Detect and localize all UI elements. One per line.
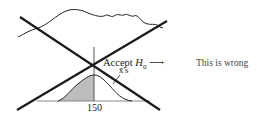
axis-tick-150: 150 [87, 102, 102, 113]
xbar-label: x̄'s [119, 65, 129, 75]
h-subscript: 0 [143, 63, 147, 71]
right-arrow-icon: ⟶ [149, 57, 164, 68]
shaded-region [58, 75, 94, 101]
wavy-curve [18, 10, 163, 37]
accept-h0-label: Accept H0 ⟶ [103, 56, 164, 71]
h-symbol: H [135, 57, 143, 68]
annotation-this-is-wrong: This is wrong [196, 58, 248, 68]
